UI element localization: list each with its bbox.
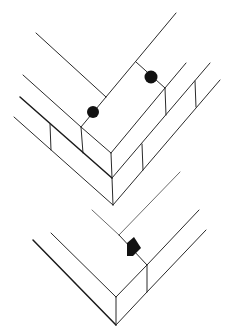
vertical-corner xyxy=(111,153,112,178)
lower-inner-front-edge xyxy=(116,265,147,297)
upper-brick-corner xyxy=(14,13,220,205)
diagram-canvas xyxy=(0,0,231,332)
course3-right-edge xyxy=(112,63,210,178)
bottom-vertical-corner xyxy=(112,178,113,205)
top-left-edge xyxy=(36,33,106,97)
brick-front-right-top xyxy=(111,88,165,153)
lower-inner-left-edge xyxy=(51,233,116,297)
lower-outer-front-edge xyxy=(116,292,147,325)
lower-slab-corner xyxy=(33,172,206,325)
vertical-right xyxy=(165,88,166,115)
lower-top-right-edge xyxy=(119,172,180,235)
course3-vertical-mid xyxy=(142,144,143,170)
bottom-left-edge xyxy=(14,117,113,205)
vertical-left xyxy=(81,127,83,153)
lower-outer-right-edge xyxy=(147,230,206,292)
lower-top-left-edge xyxy=(92,210,119,235)
joint-marker-circle-right xyxy=(145,71,158,84)
lower-inner-right-edge xyxy=(147,210,199,265)
brick-front-left-top xyxy=(81,127,111,153)
top-right-edge xyxy=(106,13,176,97)
lower-outer-left-edge xyxy=(33,240,116,325)
course2-left-edge xyxy=(23,75,81,127)
course2-right-edge xyxy=(165,63,186,88)
course3-vertical-right xyxy=(195,81,196,107)
joint-marker-circle-left xyxy=(87,106,99,118)
course3-vertical-left xyxy=(50,124,51,150)
joint-marker-diamond xyxy=(127,237,141,256)
